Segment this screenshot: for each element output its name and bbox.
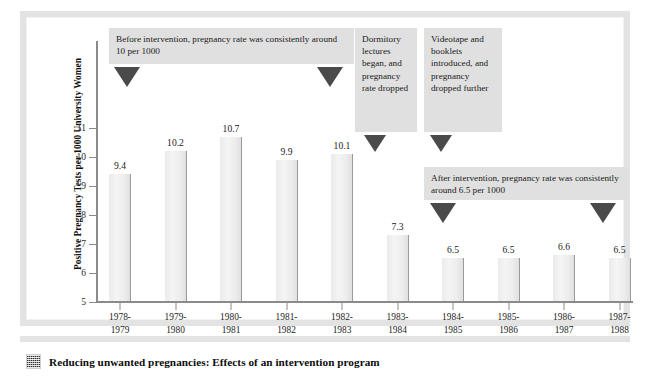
x-tick-mark [508,303,509,310]
x-tick-label: 1987-1988 [589,311,650,336]
pointer-triangle-after-end-icon [590,203,616,223]
y-tick-mark-8 [89,215,97,216]
x-tick-mark [286,303,287,310]
y-tick-mark-6 [89,273,97,274]
x-tick-mark [120,303,121,310]
bar-value-label: 6.5 [431,244,475,255]
y-axis-title: Positive Pregnancy Tests per 1000 Univer… [70,25,86,303]
x-tick-label: 1986-1987 [533,311,595,336]
bar [220,137,242,301]
bar [442,258,464,301]
y-tick-label-9: 9 [64,181,86,191]
y-tick-label-7: 7 [64,239,86,249]
x-tick-mark [397,303,398,310]
y-tick-mark-7 [89,244,97,245]
x-tick-mark [453,303,454,310]
x-tick-label: 1984-1985 [422,311,484,336]
figure-root: Positive Pregnancy Tests per 1000 Univer… [0,0,650,379]
y-tick-label-11: 11 [64,123,86,133]
y-tick-mark-9 [89,186,97,187]
annotation-before-intervention: Before intervention, pregnancy rate was … [109,28,354,64]
figure-caption-text: Reducing unwanted pregnancies: Effects o… [49,356,380,368]
chart-plot-area: Positive Pregnancy Tests per 1000 Univer… [20,11,630,326]
annotation-after-intervention: After intervention, pregnancy rate was c… [424,167,629,200]
y-tick-label-6: 6 [64,268,86,278]
y-tick-label-8: 8 [64,210,86,220]
y-tick-mark-5 [89,302,97,303]
halftone-square-icon [26,354,41,369]
x-tick-label: 1979-1980 [145,311,207,336]
y-axis-line [96,41,98,303]
y-tick-label-10: 10 [64,152,86,162]
x-axis-line [96,301,633,303]
figure-caption-row: Reducing unwanted pregnancies: Effects o… [26,354,380,369]
x-tick-mark [231,303,232,310]
x-tick-label: 1978-1979 [89,311,151,336]
pointer-triangle-after-start-icon [430,203,456,223]
pointer-triangle-dormitory-icon [364,135,386,152]
y-tick-mark-10 [89,157,97,158]
bar [387,235,409,301]
x-tick-label: 1981-1982 [256,311,318,336]
bar [109,174,131,301]
bar-value-label: 9.4 [98,160,142,171]
bar-value-label: 10.2 [154,137,198,148]
x-tick-label: 1983-1984 [367,311,429,336]
x-tick-mark [175,303,176,310]
bar [553,255,575,301]
annotation-dormitory-lectures: Dormitory lectures began, and pregnancy … [355,28,417,132]
bar [276,160,298,301]
x-tick-mark [342,303,343,310]
x-tick-label: 1980-1981 [200,311,262,336]
y-tick-label-5: 5 [64,297,86,307]
bar-value-label: 9.9 [265,146,309,157]
annotation-videotape-booklets: Videotape and booklets introduced, and p… [424,28,502,132]
bar-value-label: 10.1 [320,140,364,151]
bar-value-label: 10.7 [209,123,253,134]
x-tick-mark [619,303,620,310]
pointer-triangle-videotape-icon [430,135,452,152]
bar [331,154,353,301]
bar [498,258,520,301]
bar-value-label: 7.3 [376,221,420,232]
bar [165,151,187,301]
x-tick-label: 1985-1986 [478,311,540,336]
bar-value-label: 6.6 [542,241,586,252]
x-tick-mark [564,303,565,310]
bar-value-label: 6.5 [487,244,531,255]
pointer-triangle-before-start-icon [114,67,140,87]
y-axis-title-text: Positive Pregnancy Tests per 1000 Univer… [70,25,86,303]
bar-value-label: 6.5 [598,244,642,255]
x-tick-label: 1982-1983 [311,311,373,336]
figure-caption-bar: Reducing unwanted pregnancies: Effects o… [20,336,630,379]
y-tick-mark-11 [89,128,97,129]
pointer-triangle-before-end-icon [317,67,343,87]
bar [609,258,631,301]
